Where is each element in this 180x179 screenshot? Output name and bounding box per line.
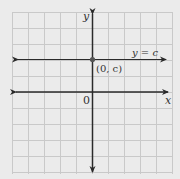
origin-label: 0 [83,94,90,107]
point-label: (0, c) [96,63,122,74]
point-0-c [90,57,95,62]
y-axis-label: y [82,10,90,23]
x-axis-label: x [165,94,172,107]
line-label: y = c [131,47,158,58]
coordinate-plane-figure: y x 0 y = c (0, c) [0,0,180,179]
